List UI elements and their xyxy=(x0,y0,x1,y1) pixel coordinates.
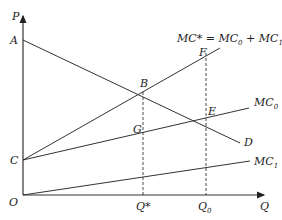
point-b-label: B xyxy=(139,77,148,90)
point-d-label: D xyxy=(243,136,253,149)
mc-star-curve xyxy=(23,48,220,160)
origin-label: O xyxy=(9,196,18,209)
mc1-curve xyxy=(23,161,250,195)
mc1-label: MC1 xyxy=(253,155,278,170)
point-e-label: E xyxy=(207,105,216,118)
q0-label: Q0 xyxy=(198,200,212,215)
diagram-canvas: P Q O A C B G E F D Q* Q0 MC* = MC0 + MC… xyxy=(0,0,282,220)
y-axis-label: P xyxy=(11,10,20,23)
point-a-label: A xyxy=(9,34,18,47)
mc0-label: MC0 xyxy=(253,96,279,111)
x-axis-label: Q xyxy=(260,200,269,213)
point-c-label: C xyxy=(10,154,19,167)
q-star-label: Q* xyxy=(136,200,151,213)
mc-star-formula: MC* = MC0 + MC1 xyxy=(176,32,282,47)
point-f-label: F xyxy=(198,46,207,59)
economics-diagram: P Q O A C B G E F D Q* Q0 MC* = MC0 + MC… xyxy=(0,0,282,220)
point-g-label: G xyxy=(133,123,142,136)
